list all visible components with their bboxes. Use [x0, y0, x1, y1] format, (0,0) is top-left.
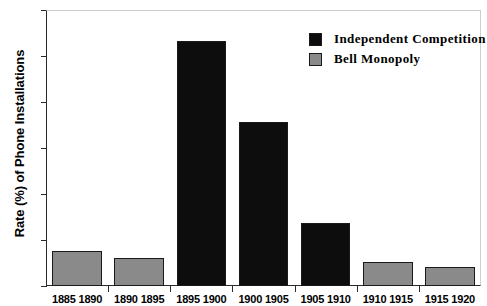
x-tick-mark [232, 286, 233, 292]
legend-entry-bell: Bell Monopoly [309, 52, 486, 66]
y-axis-title: Rate (%) of Phone Installations [12, 9, 27, 279]
bar [52, 251, 102, 286]
bar [177, 41, 227, 286]
legend-swatch-icon [309, 33, 322, 46]
legend-entry-independent: Independent Competition [309, 32, 486, 46]
x-tick-label: 1885 1890 [46, 293, 108, 305]
bar [301, 223, 351, 286]
x-tick-label: 1915 1920 [419, 293, 481, 305]
x-tick-mark [419, 286, 420, 292]
x-tick-mark [357, 286, 358, 292]
legend: Independent Competition Bell Monopoly [309, 32, 486, 72]
bar [363, 262, 413, 286]
x-tick-label: 1890 1895 [108, 293, 170, 305]
x-tick-label: 1900 1905 [232, 293, 294, 305]
bar [239, 122, 289, 286]
x-tick-label: 1910 1915 [357, 293, 419, 305]
legend-swatch-icon [309, 53, 322, 66]
bar [114, 258, 164, 286]
x-tick-mark [170, 286, 171, 292]
legend-label: Independent Competition [334, 31, 486, 47]
y-tick-mark [41, 286, 47, 287]
x-tick-mark [295, 286, 296, 292]
x-tick-label: 1895 1900 [170, 293, 232, 305]
x-tick-mark [108, 286, 109, 292]
bar-chart: Rate (%) of Phone Installations 05010015… [0, 0, 487, 306]
x-tick-label: 1905 1910 [295, 293, 357, 305]
bar [425, 267, 475, 286]
legend-label: Bell Monopoly [334, 51, 420, 67]
